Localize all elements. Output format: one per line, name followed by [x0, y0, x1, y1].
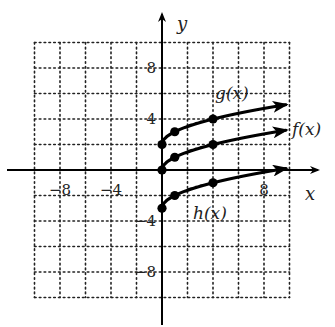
y-tick-label: 4 — [146, 110, 156, 128]
function-graph: −8−4884−4−8 x y g(x) f(x) h(x) — [0, 0, 335, 327]
y-tick-label: −8 — [134, 263, 156, 281]
data-point — [170, 153, 179, 162]
data-point — [157, 140, 166, 149]
data-point — [170, 127, 179, 136]
data-point — [208, 114, 217, 123]
data-point — [170, 191, 179, 200]
x-tick-label: 8 — [259, 181, 269, 199]
g-label: g(x) — [215, 83, 249, 103]
h-label: h(x) — [193, 203, 227, 223]
data-point — [157, 204, 166, 213]
y-axis-label: y — [176, 13, 188, 34]
x-tick-label: −8 — [49, 181, 71, 199]
curve-f — [162, 130, 286, 170]
data-point — [208, 140, 217, 149]
x-axis-label: x — [305, 183, 315, 204]
y-tick-label: 8 — [146, 59, 156, 77]
y-tick-label: −4 — [134, 212, 156, 230]
data-point — [157, 165, 166, 174]
f-label: f(x) — [290, 119, 321, 139]
curve-g — [162, 105, 286, 145]
x-tick-label: −4 — [100, 181, 122, 199]
data-point — [208, 178, 217, 187]
